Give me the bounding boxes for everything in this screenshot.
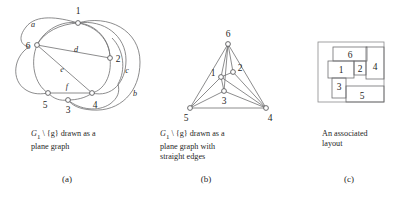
vertex-5 — [188, 106, 193, 111]
vertex-4 — [264, 106, 269, 111]
vertex-3 — [66, 98, 71, 103]
edge-b-curve — [68, 21, 140, 111]
layout-label-3: 3 — [337, 82, 342, 92]
vertex-1 — [76, 21, 81, 26]
edge-label-e: e — [60, 65, 64, 74]
vertex-label-1: 1 — [211, 68, 216, 78]
vertex-label-3: 3 — [66, 105, 71, 115]
layout-label-4: 4 — [373, 62, 378, 72]
vertex-3 — [222, 89, 227, 94]
vertex-6 — [35, 43, 40, 48]
edge-label-f: f — [66, 82, 70, 91]
edge-label-b: b — [133, 89, 137, 98]
vertex-label-5: 5 — [43, 100, 48, 110]
panel-letter-c: (c) — [329, 174, 369, 184]
caption-b-text: \ {g} drawn as a plane graph with straig… — [160, 129, 225, 161]
panel-c-layout: 6 1 2 4 3 5 — [292, 0, 416, 128]
layout-label-2: 2 — [358, 64, 363, 74]
edge-6-1-upper — [37, 22, 78, 45]
edge-6-3 — [224, 44, 228, 91]
caption-c: An associated layout — [322, 129, 416, 150]
edge-5-3 — [48, 93, 68, 100]
layout-label-5: 5 — [360, 91, 365, 101]
figure-container: 1 2 3 4 5 6 a b c d e f — [0, 0, 416, 204]
panel-letter-a: (a) — [47, 174, 87, 184]
vertex-2 — [231, 70, 236, 75]
edge-label-a: a — [31, 20, 35, 29]
vertex-label-6: 6 — [26, 41, 31, 51]
layout-rect-5 — [346, 86, 384, 102]
vertex-1 — [219, 75, 224, 80]
vertex-label-1: 1 — [76, 6, 81, 16]
vertex-label-2: 2 — [116, 54, 121, 64]
vertex-label-3: 3 — [222, 96, 227, 106]
caption-b: G1 \ {g} drawn as a plane graph with str… — [160, 129, 284, 163]
vertex-4 — [90, 91, 95, 96]
edge-3-4 — [68, 93, 92, 100]
edge-2-4 — [233, 72, 266, 108]
edge-e — [37, 45, 92, 93]
layout-label-6: 6 — [348, 50, 353, 60]
vertex-label-6: 6 — [226, 29, 231, 39]
vertex-label-4: 4 — [93, 100, 98, 110]
vertex-5 — [46, 91, 51, 96]
vertex-2 — [108, 56, 113, 61]
edge-6-4 — [228, 44, 266, 108]
edge-6-5-outer — [16, 47, 48, 94]
vertex-label-5: 5 — [184, 113, 189, 123]
edge-2-4-inner — [92, 58, 110, 93]
layout-label-1: 1 — [339, 65, 344, 75]
panel-b-graph: 6 2 1 3 5 4 — [152, 0, 292, 128]
caption-a-text: \ {g} drawn as a plane graph — [31, 129, 96, 151]
edge-1-6-inner — [37, 23, 78, 45]
vertex-6 — [226, 42, 231, 47]
panel-letter-b: (b) — [186, 174, 226, 184]
edge-label-c: c — [125, 66, 129, 75]
caption-a: G1 \ {g} drawn as a plane graph — [31, 129, 151, 152]
vertex-label-4: 4 — [268, 113, 273, 123]
panel-a-graph: 1 2 3 4 5 6 a b c d e f — [0, 0, 152, 128]
vertex-label-2: 2 — [238, 63, 243, 73]
